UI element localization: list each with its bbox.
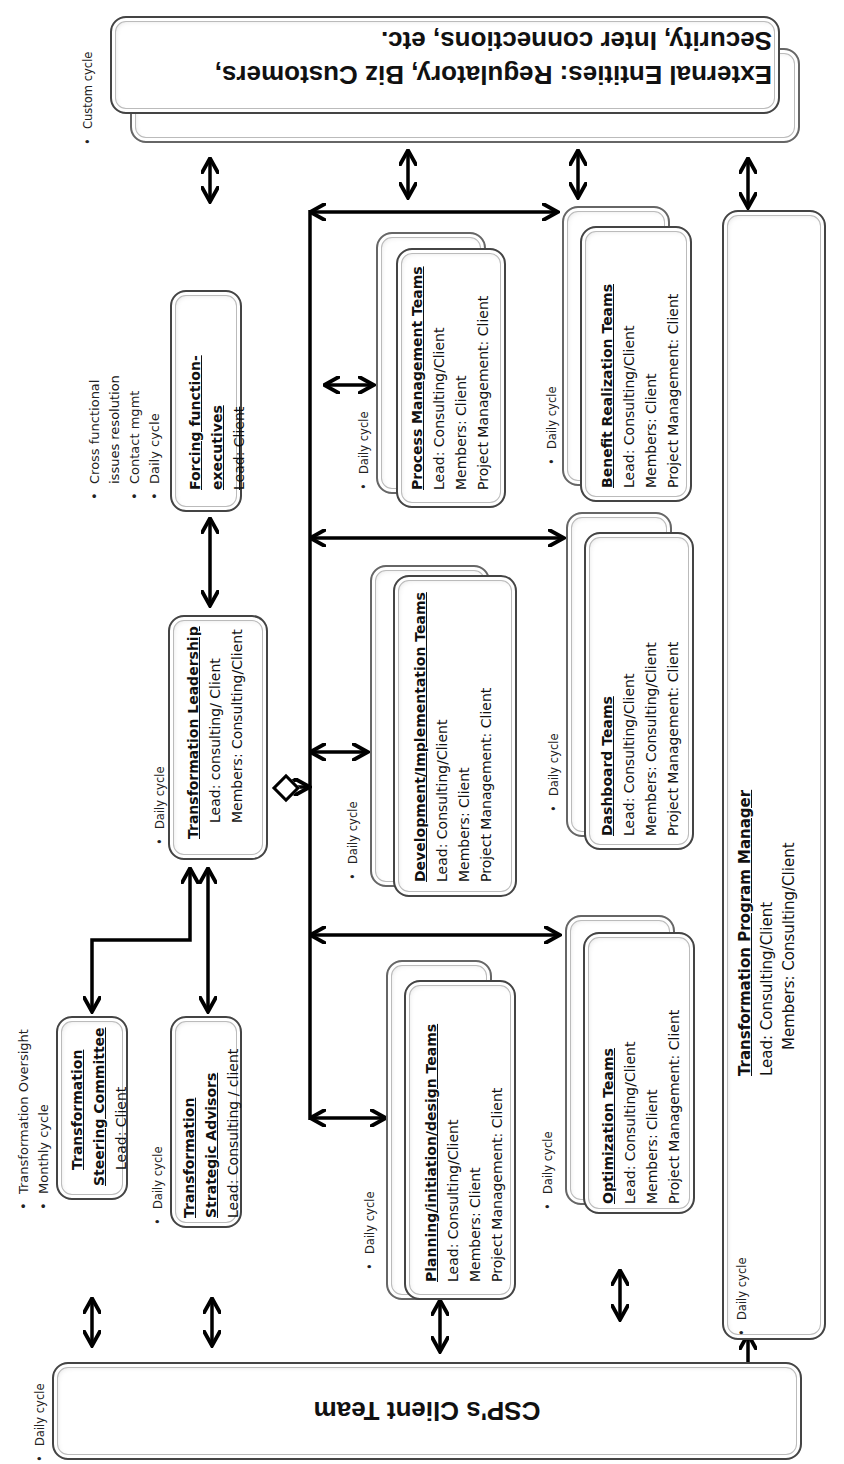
planning-note: Daily cycle: [362, 1192, 378, 1270]
optimization-note: Daily cycle: [540, 1132, 556, 1210]
dashboard-note: Daily cycle: [546, 734, 562, 812]
dashboard-team-title: Dashboard Teams: [596, 642, 618, 836]
development-team-box[interactable]: Development/Implementation Teams Lead: C…: [393, 575, 517, 897]
program-manager-note: Daily cycle: [734, 1258, 750, 1336]
forcing-function-box[interactable]: Forcing function- executives Lead: Clien…: [170, 290, 242, 512]
external-entities-box[interactable]: External Entities: Regulatory, Biz Custo…: [110, 16, 780, 114]
external-entities-text: External Entities: Regulatory, Biz Custo…: [112, 24, 780, 92]
process-team-box[interactable]: Process Management Teams Lead: Consultin…: [396, 248, 506, 508]
development-team-title: Development/Implementation Teams: [409, 592, 431, 882]
client-team-title: CSP's Client Team: [314, 1394, 541, 1428]
strategic-advisors-box[interactable]: Transformation Strategic Advisors Lead: …: [170, 1016, 242, 1228]
forcing-function-title: Forcing function-: [184, 355, 206, 490]
benefit-team-box[interactable]: Benefit Realization Teams Lead: Consulti…: [580, 226, 692, 502]
dashboard-team-box[interactable]: Dashboard Teams Lead: Consulting/Client …: [584, 532, 694, 850]
development-note: Daily cycle: [345, 802, 361, 880]
external-entities-note: Custom cycle: [80, 52, 96, 145]
client-team-note: Daily cycle: [32, 1384, 48, 1462]
planning-team-title: Planning/initiation/design Teams: [420, 1024, 442, 1282]
steering-committee-box[interactable]: Transformation Steering Committee Lead: …: [56, 1016, 128, 1200]
external-entities-line1: External Entities: Regulatory, Biz Custo…: [112, 58, 772, 92]
optimization-team-box[interactable]: Optimization Teams Lead: Consulting/Clie…: [583, 932, 695, 1214]
advisors-title: Transformation: [178, 1049, 200, 1218]
optimization-team-title: Optimization Teams: [597, 1010, 619, 1204]
leadership-note: Daily cycle: [152, 767, 168, 845]
process-note: Daily cycle: [356, 412, 372, 490]
steering-notes: Transformation Oversight Monthly cycle: [14, 1029, 54, 1210]
program-manager-title: Transformation Program Manager: [734, 790, 756, 1076]
forcing-function-notes: Cross functional issues resolution Conta…: [85, 375, 165, 500]
leadership-title: Transformation Leadership: [182, 626, 204, 839]
client-team-box[interactable]: CSP's Client Team: [52, 1362, 802, 1460]
arrow-leadership-steering: [92, 870, 190, 1010]
steering-title: Transformation: [66, 1027, 88, 1186]
benefit-team-title: Benefit Realization Teams: [596, 284, 618, 488]
advisors-note: Daily cycle: [150, 1147, 166, 1225]
planning-team-box[interactable]: Planning/initiation/design Teams Lead: C…: [404, 980, 516, 1300]
transformation-leadership-box[interactable]: Transformation Leadership Lead: consulti…: [168, 615, 268, 860]
program-manager-box[interactable]: Transformation Program Manager Lead: Con…: [722, 210, 826, 1340]
benefit-note: Daily cycle: [544, 387, 560, 465]
process-team-title: Process Management Teams: [406, 266, 428, 490]
external-entities-line2: Security, Inter connections, etc.: [112, 24, 772, 58]
